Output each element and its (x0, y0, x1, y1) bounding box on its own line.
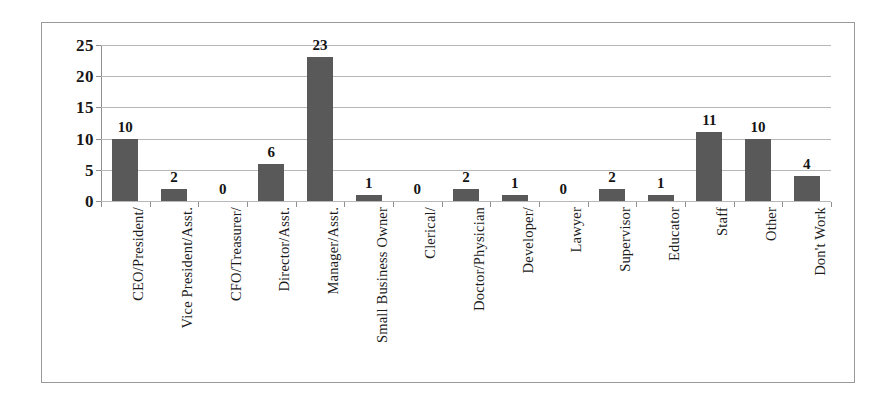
x-axis-category-label: Other (764, 207, 779, 241)
x-axis-category-label: Clerical/ (423, 207, 438, 259)
gridline (101, 107, 831, 108)
x-axis-category-label: Don't Work (813, 207, 828, 276)
x-axis-category-label: Developer/ (521, 207, 536, 273)
bar (161, 189, 187, 201)
gridline (101, 76, 831, 77)
y-axis-tick (96, 76, 101, 77)
bar-value-label: 10 (728, 120, 788, 135)
gridline (101, 45, 831, 46)
y-axis-tick-label: 15 (48, 99, 94, 116)
chart-plot-wrapper: 0510152025 1020623102102111104 CEO/Presi… (42, 23, 856, 384)
bar (745, 139, 771, 201)
y-axis-tick (96, 170, 101, 171)
gridline (101, 201, 831, 202)
chart-frame: 0510152025 1020623102102111104 CEO/Presi… (41, 22, 855, 383)
bar (307, 57, 333, 201)
bar-value-label: 6 (241, 145, 301, 160)
bar-value-label: 4 (777, 157, 837, 172)
bar-value-label: 23 (290, 38, 350, 53)
bar (696, 132, 722, 201)
bar (112, 139, 138, 201)
y-axis-tick-label: 10 (48, 130, 94, 147)
x-axis-category-label: Manager/Asst. (326, 207, 341, 295)
y-axis-tick-labels: 0510152025 (48, 23, 94, 384)
bar (502, 195, 528, 201)
y-axis-tick-label: 0 (48, 193, 94, 210)
y-axis-tick-label: 25 (48, 37, 94, 54)
bar (648, 195, 674, 201)
bar (794, 176, 820, 201)
y-axis-tick (96, 107, 101, 108)
x-axis-category-labels: CEO/President/Vice President/Asst.CFO/Tr… (101, 207, 831, 377)
y-axis-tick-label: 5 (48, 161, 94, 178)
bar-value-label: 1 (631, 176, 691, 191)
x-axis-category-label: Staff (715, 207, 730, 236)
x-axis-category-label: Lawyer (569, 207, 584, 252)
x-axis-category-label: Educator (667, 207, 682, 261)
plot-area: 1020623102102111104 (101, 45, 831, 201)
bar-value-label: 10 (95, 120, 155, 135)
x-axis-category-label: Doctor/Physician (472, 207, 487, 311)
x-axis-category-label: CFO/Treasurer/ (229, 207, 244, 301)
x-axis-category-label: CEO/President/ (131, 207, 146, 301)
bar (258, 164, 284, 201)
x-axis-category-label: Director/Asst. (277, 207, 292, 292)
x-axis-tick (831, 202, 832, 207)
bar (356, 195, 382, 201)
x-axis-category-label: Supervisor (618, 207, 633, 272)
bar (599, 189, 625, 201)
y-axis-tick (96, 139, 101, 140)
y-axis-tick-label: 20 (48, 68, 94, 85)
x-axis-category-label: Vice President/Asst. (180, 207, 195, 329)
bar-value-label: 0 (193, 182, 253, 197)
x-axis-category-label: Small Business Owner (375, 207, 390, 343)
bar (453, 189, 479, 201)
y-axis-tick (96, 45, 101, 46)
